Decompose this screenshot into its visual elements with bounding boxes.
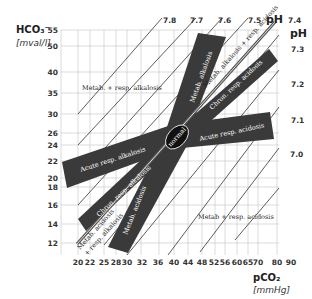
ph-label: 7.5 [248, 16, 261, 25]
acid-base-nomogram: normal Metab. alkalosis Metab. alkalosis… [0, 0, 312, 299]
x-tick: 52 [209, 258, 219, 267]
ph-axis-label-top: pH [266, 13, 283, 26]
y-tick: 40 [48, 68, 58, 77]
x-tick: 44 [183, 258, 193, 267]
ph-label: 7.4 [288, 16, 301, 25]
ph-label: 7.2 [291, 80, 304, 89]
x-tick: 60 [232, 258, 242, 267]
y-tick: 30 [48, 110, 58, 119]
y-tick: 35 [48, 89, 58, 98]
ph-axis-label-right: pH [290, 27, 307, 40]
y-tick: 24 [48, 141, 58, 150]
y-tick: 12 [48, 239, 58, 248]
x-tick: 32 [137, 258, 147, 267]
x-tick: 80 [272, 258, 282, 267]
ph-label: 7.8 [163, 16, 176, 25]
zone-acidosis: Metab + resp. acidosis [198, 213, 274, 221]
y-axis-ticks: 55 50 40 35 30 26 24 22 20 18 16 14 12 [48, 26, 58, 248]
x-tick: 25 [99, 258, 109, 267]
y-tick: 14 [48, 220, 58, 229]
x-axis-unit: [mmHg] [253, 285, 291, 295]
ph-label: 7.3 [291, 45, 304, 54]
x-tick: 56 [220, 258, 230, 267]
y-tick: 16 [48, 201, 58, 210]
ph-label: 7.0 [290, 150, 303, 159]
zone-alkalosis: Metab. + resp. alkalosis [82, 84, 162, 92]
x-tick: 30 [122, 258, 132, 267]
x-tick: 40 [169, 258, 179, 267]
ph-label: 7.7 [190, 16, 203, 25]
x-tick: 90 [286, 258, 296, 267]
y-axis-unit: [mval/l] [16, 38, 51, 48]
x-axis-label: pCO₂ [253, 272, 280, 283]
x-axis-ticks: 20 22 25 28 30 32 36 40 44 48 52 56 60 6… [73, 258, 296, 267]
ph-label: 7.1 [291, 116, 304, 125]
y-tick: 20 [48, 174, 58, 183]
y-tick: 22 [48, 157, 58, 166]
x-tick: 65 [243, 258, 253, 267]
y-axis-label: HCO₃⁻ [16, 24, 50, 35]
y-tick: 18 [48, 183, 58, 192]
x-tick: 20 [73, 258, 83, 267]
x-tick: 36 [153, 258, 163, 267]
x-tick: 28 [111, 258, 121, 267]
x-tick: 48 [197, 258, 207, 267]
y-tick: 26 [48, 129, 58, 138]
x-tick: 22 [85, 258, 95, 267]
ph-label: 7.6 [218, 16, 231, 25]
x-tick: 70 [253, 258, 263, 267]
